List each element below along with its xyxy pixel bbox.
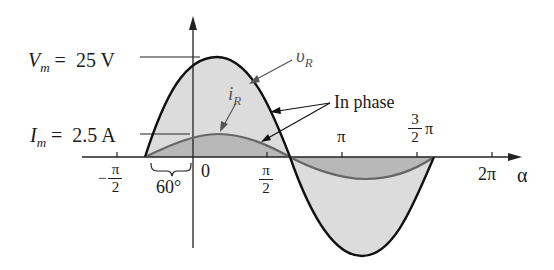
tick-label-pi: π [337, 128, 346, 145]
tick-numerator: 3 [411, 112, 419, 127]
offset-angle-label: 60° [156, 178, 181, 196]
vr-subscript: R [305, 55, 313, 70]
tick-fraction: π 2 [108, 162, 122, 195]
ir-subscript: R [233, 93, 241, 108]
vm-subscript: m [40, 60, 49, 75]
tick-fraction: 3 2 [408, 112, 422, 145]
vm-label: Vm = 25 V [28, 50, 115, 70]
tick-label-half-pi: π 2 [259, 162, 273, 196]
tick-label-two-pi: 2π [478, 165, 496, 183]
tick-label-zero: 0 [201, 162, 210, 180]
im-subscript: m [37, 135, 46, 150]
tick-numerator: π [112, 162, 120, 177]
im-label: Im = 2.5 A [30, 125, 116, 145]
sixty-degree-brace [151, 163, 191, 176]
tick-suffix: π [425, 121, 433, 137]
tick-numerator: π [262, 163, 270, 178]
sine-phase-figure: Vm = 25 V Im = 2.5 A υR iR In phase − π … [0, 0, 554, 270]
x-axis-arrow-icon [508, 153, 522, 161]
ir-label: iR [228, 84, 241, 103]
tick-denominator: 2 [411, 130, 419, 145]
tick-denominator: 2 [112, 180, 120, 195]
y-axis-arrow-icon [189, 16, 197, 30]
vm-value: = 25 V [55, 49, 115, 71]
tick-fraction: π 2 [259, 163, 273, 196]
in-phase-label: In phase [334, 93, 394, 111]
im-symbol: I [30, 124, 37, 146]
im-value: = 2.5 A [51, 124, 116, 146]
tick-sign: − [98, 171, 106, 186]
vr-label: υR [296, 46, 313, 65]
vr-symbol: υ [296, 45, 305, 66]
vr-pointer-line [255, 60, 292, 80]
axis-variable-label: α [517, 165, 527, 185]
tick-label-neg-half-pi: − π 2 [98, 162, 122, 195]
tick-denominator: 2 [262, 181, 270, 196]
tick-label-three-half-pi: 3 2 π [408, 112, 433, 145]
vm-symbol: V [28, 49, 40, 71]
